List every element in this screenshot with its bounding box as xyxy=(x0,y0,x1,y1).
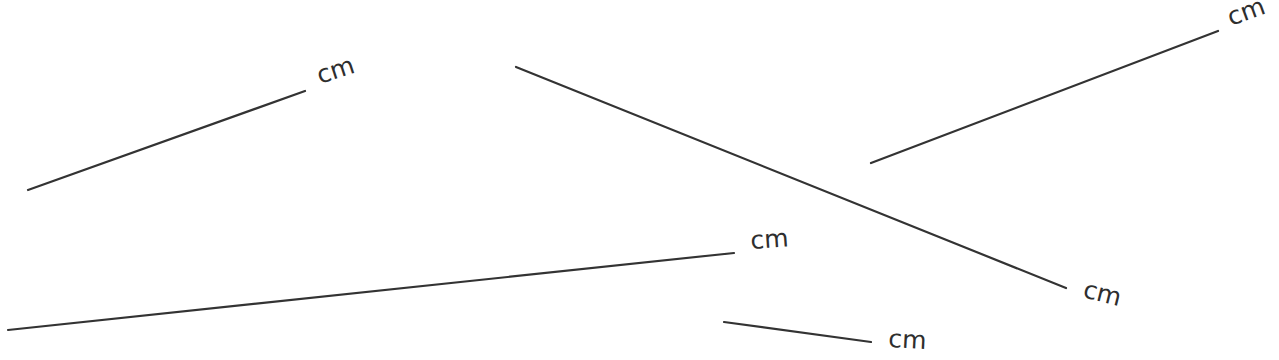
segment-4: cm xyxy=(8,223,789,330)
unit-label: cm xyxy=(1223,0,1269,32)
segment-1: cm xyxy=(28,50,358,190)
unit-label: cm xyxy=(888,324,928,355)
unit-label: cm xyxy=(749,223,789,255)
line-segment xyxy=(516,67,1066,288)
line-segment xyxy=(8,253,734,330)
segment-3: cm xyxy=(871,0,1269,163)
unit-label: cm xyxy=(313,50,358,89)
measurement-diagram: cm cm cm cm cm xyxy=(0,0,1279,360)
line-segment xyxy=(28,91,305,190)
unit-label: cm xyxy=(1081,275,1125,312)
segment-5: cm xyxy=(724,322,927,355)
line-segment xyxy=(724,322,871,342)
line-segment xyxy=(871,31,1218,163)
segment-2: cm xyxy=(516,67,1125,312)
